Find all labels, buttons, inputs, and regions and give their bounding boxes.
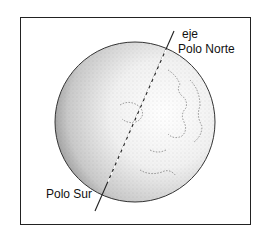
south-pole-label: Polo Sur	[46, 188, 92, 200]
earth-globe-illustration	[0, 0, 267, 238]
north-pole-label: Polo Norte	[178, 43, 235, 55]
axis-label: eje	[182, 28, 198, 40]
